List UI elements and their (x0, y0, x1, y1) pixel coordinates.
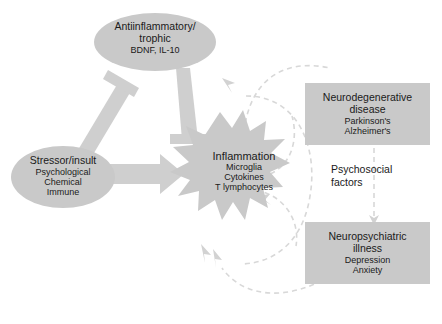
arrowhead-to-inflammation-bottom (213, 249, 222, 268)
node-antiinflammatory (94, 13, 216, 71)
diagram-canvas: Antiinflammatory/ trophic BDNF, IL-10 St… (0, 0, 442, 324)
psychosocial-factors-label: Psychosocial factors (331, 163, 431, 189)
arrowhead-to-inflammation-top (222, 78, 235, 93)
antiinflammatory-ellipse (94, 13, 216, 71)
shaft-antiinflam-inflammation (176, 68, 198, 140)
node-neuropsychiatric (305, 222, 430, 284)
arrow-stressor-inflammation (103, 154, 184, 194)
node-stressor (11, 146, 115, 208)
node-neurodegenerative (305, 83, 430, 145)
diagram-graphics-layer (0, 0, 442, 324)
psychosocial-line1: Psychosocial (331, 163, 431, 176)
arrowhead-to-inflammation-bottom-outer (201, 244, 211, 263)
connector-stressor-to-inflammation (103, 154, 184, 194)
psychosocial-line2: factors (331, 176, 431, 189)
neurodegenerative-rect (305, 83, 430, 145)
stressor-ellipse (11, 146, 115, 208)
neuropsychiatric-rect (305, 222, 430, 284)
